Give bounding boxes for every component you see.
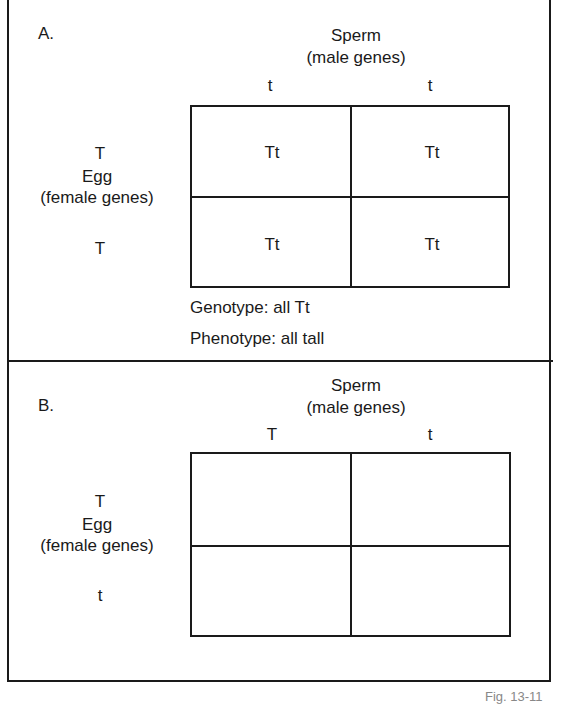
sperm-subtitle: (male genes): [306, 398, 405, 418]
panel-divider: [7, 360, 553, 362]
row-allele-2: t: [98, 586, 103, 606]
egg-subtitle: (female genes): [40, 536, 153, 556]
grid-cell: Tt: [264, 235, 279, 255]
column-allele-2: t: [428, 425, 433, 445]
column-allele-1: T: [267, 425, 277, 445]
sperm-subtitle: (male genes): [306, 48, 405, 68]
figure-label: Fig. 13-11: [485, 689, 543, 704]
egg-title: Egg: [82, 167, 112, 187]
grid-cell: Tt: [424, 143, 439, 163]
sperm-title: Sperm: [331, 26, 381, 46]
grid-horizontal-line: [192, 196, 508, 198]
grid-cell: Tt: [264, 143, 279, 163]
genotype-summary: Genotype: all Tt: [190, 298, 310, 318]
punnett-grid: Tt Tt Tt Tt: [190, 105, 510, 288]
row-allele-1: T: [95, 492, 105, 512]
grid-cell: Tt: [424, 235, 439, 255]
grid-horizontal-line: [192, 545, 509, 547]
egg-title: Egg: [82, 515, 112, 535]
egg-subtitle: (female genes): [40, 188, 153, 208]
column-allele-1: t: [268, 76, 273, 96]
sperm-title: Sperm: [331, 376, 381, 396]
panel-label: B.: [38, 396, 54, 416]
phenotype-summary: Phenotype: all tall: [190, 329, 324, 349]
row-allele-2: T: [95, 239, 105, 259]
punnett-grid: [190, 452, 511, 637]
column-allele-2: t: [428, 76, 433, 96]
row-allele-1: T: [95, 144, 105, 164]
panel-label: A.: [38, 24, 54, 44]
